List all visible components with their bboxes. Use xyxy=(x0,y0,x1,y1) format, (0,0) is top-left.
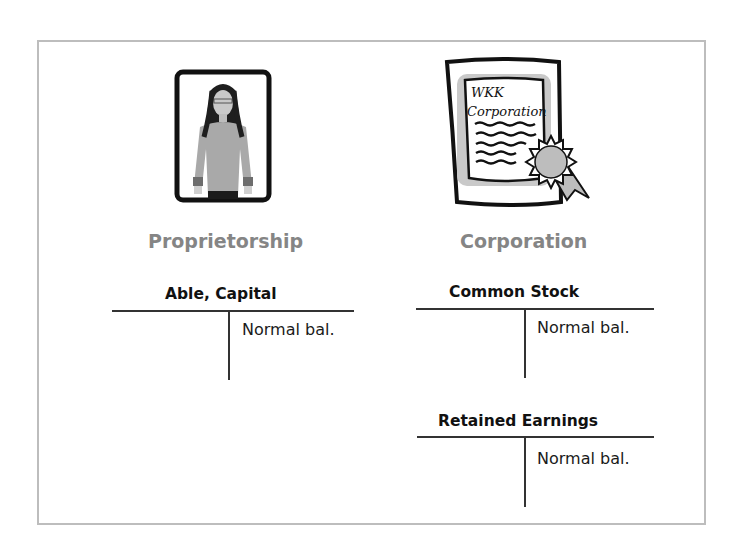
t-account-top-line xyxy=(112,310,354,312)
t-account-top-line xyxy=(417,436,654,438)
woman-portrait-icon xyxy=(174,69,273,204)
certificate-icon: WKK Corporation xyxy=(443,52,601,210)
t-account-top-line xyxy=(416,308,654,310)
account-title: Common Stock xyxy=(449,283,579,301)
normal-balance-label: Normal bal. xyxy=(242,320,334,339)
account-title: Able, Capital xyxy=(165,285,277,303)
normal-balance-label: Normal bal. xyxy=(537,449,629,468)
t-account-divider xyxy=(524,436,526,507)
corporation-caption: Corporation xyxy=(460,230,587,252)
t-account-divider xyxy=(524,308,526,378)
proprietorship-caption: Proprietorship xyxy=(148,230,303,252)
account-title: Retained Earnings xyxy=(438,412,598,430)
certificate-line2: Corporation xyxy=(467,104,547,119)
normal-balance-label: Normal bal. xyxy=(537,318,629,337)
certificate-line1: WKK xyxy=(471,85,505,100)
t-account-divider xyxy=(228,310,230,380)
